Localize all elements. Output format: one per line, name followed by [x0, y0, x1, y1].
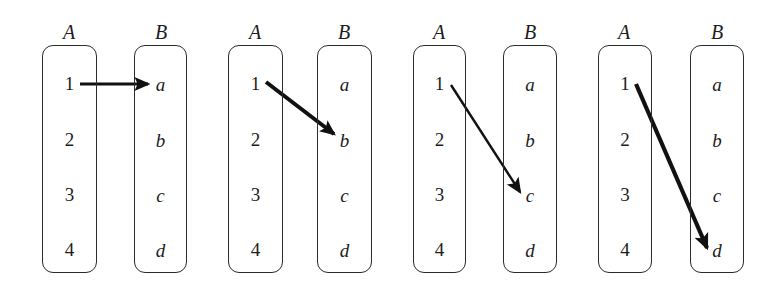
panel-4-target-item-a: a — [691, 75, 743, 94]
panel-4-target-item-b: b — [691, 131, 743, 150]
panel-4-target-group: Babcd — [0, 0, 777, 289]
panel-4-target-box: abcd — [690, 45, 744, 273]
panel-4-target-item-d: d — [691, 241, 743, 260]
panel-4-target-item-c: c — [691, 186, 743, 205]
mapping-diagram-figure: A1234BabcdA1234BabcdA1234BabcdA1234Babcd — [0, 0, 777, 289]
panel-4-target-label: B — [697, 22, 737, 42]
